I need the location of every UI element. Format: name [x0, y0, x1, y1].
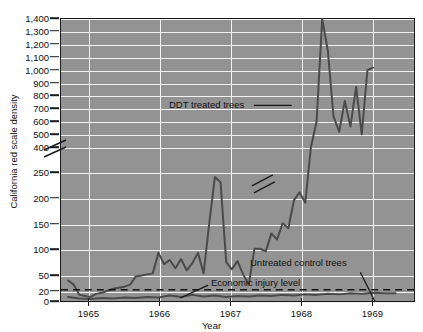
- y-axis-tick-label: 250: [33, 168, 49, 177]
- y-axis-tick-label: 1,400: [25, 14, 49, 23]
- y-axis-tick-label: 1,200: [25, 39, 49, 48]
- y-axis-tick-mark: [50, 274, 59, 276]
- y-axis-tick-label: 1,100: [25, 52, 49, 61]
- plot-area: DDT treated trees Untreated control tree…: [60, 18, 415, 302]
- y-axis-tick-label: 150: [33, 219, 49, 228]
- y-axis-tick-label: 400: [33, 143, 49, 152]
- x-axis-tick-mark: [372, 298, 374, 306]
- y-axis-tick-mark: [50, 82, 59, 84]
- y-axis-tick-label: 1,000: [25, 65, 49, 74]
- y-axis-tick-mark: [50, 146, 59, 148]
- y-axis-tick-label: 100: [33, 245, 49, 254]
- x-axis-tick-mark: [301, 298, 303, 306]
- control-annotation-label: Untreated control trees: [250, 257, 347, 268]
- x-axis-tick-mark: [159, 298, 161, 306]
- x-axis-title: Year: [0, 320, 423, 331]
- y-axis-tick-label: 1,300: [25, 26, 49, 35]
- y-axis-tick-label: 800: [33, 91, 49, 100]
- series-line-untreated-control-trees: [68, 293, 396, 299]
- y-axis-tick-label: 0: [44, 297, 49, 306]
- y-axis-tick-mark: [50, 300, 59, 302]
- series-layer: [61, 19, 414, 301]
- y-axis-tick-mark: [50, 95, 59, 97]
- y-axis-tick-mark: [50, 133, 59, 135]
- y-axis-title: California red scale density: [8, 47, 19, 257]
- y-axis-tick-mark: [50, 17, 59, 19]
- y-axis-tick-mark: [50, 69, 59, 71]
- x-axis-tick-label: 1967: [220, 308, 241, 319]
- y-axis-tick-mark: [50, 197, 59, 199]
- y-axis-tick-mark: [50, 43, 59, 45]
- y-axis-tick-mark: [50, 30, 59, 32]
- y-axis-tick-mark: [50, 56, 59, 58]
- x-axis-tick-label: 1965: [78, 308, 99, 319]
- x-axis-tick-mark: [88, 298, 90, 306]
- y-axis-tick-label: 50: [38, 271, 49, 280]
- y-axis-tick-label: 200: [33, 193, 49, 202]
- x-axis-tick-label: 1968: [291, 308, 312, 319]
- ddt-annotation-label: DDT treated trees: [169, 99, 244, 110]
- y-axis-tick-label: 500: [33, 130, 49, 139]
- x-axis-tick-mark: [230, 298, 232, 306]
- y-axis-tick-mark: [50, 290, 59, 292]
- series-line-ddt-treated-trees: [68, 19, 373, 297]
- y-axis-tick-label: 900: [33, 78, 49, 87]
- x-axis-tick-label: 1969: [362, 308, 383, 319]
- gridline-horizontal: [61, 302, 414, 303]
- y-axis-tick-mark: [50, 249, 59, 251]
- y-axis-tick-label: 600: [33, 117, 49, 126]
- y-axis-tick-label: 700: [33, 104, 49, 113]
- x-axis-tick-label: 1966: [149, 308, 170, 319]
- chart-figure: DDT treated trees Untreated control tree…: [0, 0, 423, 332]
- y-axis-tick-label: 20: [38, 286, 49, 295]
- y-axis-tick-mark: [50, 171, 59, 173]
- series-axis-break-glyph: [252, 175, 275, 193]
- y-axis-tick-mark: [50, 120, 59, 122]
- y-axis-tick-mark: [50, 108, 59, 110]
- injury-annotation-label: Economic injury level: [211, 277, 300, 288]
- y-axis-tick-mark: [50, 223, 59, 225]
